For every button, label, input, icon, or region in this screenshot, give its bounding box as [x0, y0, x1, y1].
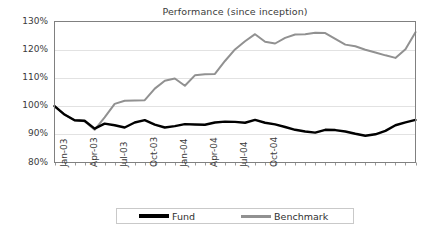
y-axis-tick-label: 90% [14, 128, 48, 138]
series-lines [55, 32, 416, 135]
series-line-benchmark [55, 32, 416, 130]
x-axis-tick-label: Jan-03 [59, 138, 69, 167]
y-axis-tick-label: 100% [14, 100, 48, 110]
legend-label-benchmark: Benchmark [274, 211, 328, 222]
performance-chart: Performance (since inception) 130%120%11… [0, 0, 446, 231]
plot-area-border [55, 22, 416, 163]
x-axis-tick-label: Jul-03 [119, 141, 129, 167]
legend-entry-fund: Fund [139, 209, 195, 223]
x-axis-tick-label: Jul-04 [239, 141, 249, 167]
chart-legend: Fund Benchmark [116, 208, 354, 224]
plot-svg [0, 0, 446, 231]
y-axis-tick-label: 130% [14, 16, 48, 26]
legend-entry-benchmark: Benchmark [241, 209, 328, 223]
x-axis-tick-label: Apr-04 [209, 137, 219, 167]
y-axis-tick-label: 110% [14, 72, 48, 82]
benchmark-line-swatch [241, 215, 271, 218]
x-axis-tick-label: Apr-03 [89, 137, 99, 167]
y-axis-tick-label: 120% [14, 44, 48, 54]
x-axis-tick-label: Oct-03 [149, 136, 159, 166]
x-axis-tick-label: Jan-04 [179, 138, 189, 167]
y-axis-tick-label: 80% [14, 157, 48, 167]
fund-line-swatch [139, 214, 169, 218]
legend-label-fund: Fund [172, 211, 195, 222]
x-axis-tick-label: Oct-04 [269, 136, 279, 166]
